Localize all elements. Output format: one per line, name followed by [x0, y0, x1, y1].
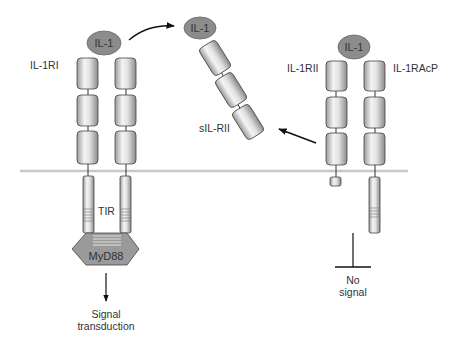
il1racp-receptor-left: [115, 58, 136, 233]
tir-label: TIR: [98, 205, 115, 217]
il1ri-receptor: [77, 58, 98, 233]
il1-soluble-label: IL-1: [191, 22, 210, 34]
il1rii-receptor: [326, 61, 347, 186]
il1racp-receptor-right: [364, 61, 385, 233]
il1racp-label: IL-1RAcP: [393, 62, 438, 74]
myd88-label: MyD88: [89, 250, 124, 262]
shedding-arrow: [279, 129, 316, 143]
signal-label-line1: Signal: [91, 308, 120, 320]
no-signal-line2: signal: [339, 286, 366, 298]
il1rii-label: IL-1RII: [287, 62, 319, 74]
no-signal-inhibition-symbol: [335, 233, 371, 267]
no-signal-line1: No: [346, 274, 360, 286]
il1-right-label: IL-1: [345, 41, 364, 53]
il1-receptor-diagram: IL-1 IL-1RI TIR MyD88 Signal transductio…: [0, 0, 459, 344]
il1-left-label: IL-1: [95, 37, 114, 49]
curved-arrow: [129, 26, 174, 40]
sil-rii-label: sIL-RII: [199, 122, 230, 134]
signal-label-line2: transduction: [77, 320, 134, 332]
il1ri-label: IL-1RI: [30, 59, 59, 71]
